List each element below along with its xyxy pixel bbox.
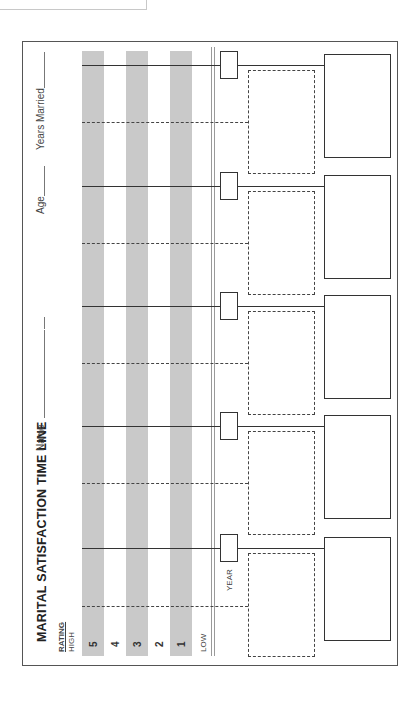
rating-band-1: [170, 51, 192, 656]
rating-level-3: 3: [132, 641, 143, 647]
timeline-connector-1: [238, 65, 324, 66]
event-dashed-box-3[interactable]: [248, 311, 315, 415]
comment-box-4[interactable]: [324, 415, 391, 519]
divider-line: [214, 47, 215, 656]
rating-level-1: 1: [176, 641, 187, 647]
name-label: Name: [35, 424, 46, 451]
year-box-1[interactable]: [220, 51, 238, 79]
timeline-connector-5: [238, 548, 324, 549]
rating-level-5: 5: [88, 641, 99, 647]
divider-line: [211, 47, 212, 656]
rating-high-label: HIGH: [67, 632, 76, 652]
rating-band-3: [126, 51, 148, 656]
year-box-4[interactable]: [220, 412, 238, 440]
rating-low-label: LOW: [199, 634, 208, 652]
age-label: Age: [35, 196, 46, 214]
year-box-3[interactable]: [220, 292, 238, 320]
rating-header: RATING: [57, 622, 66, 652]
year-box-5[interactable]: [220, 534, 238, 562]
timeline-dashed-line-1: [82, 122, 248, 123]
timeline-solid-line-2: [82, 186, 220, 187]
age-field-line[interactable]: [44, 166, 45, 196]
rating-level-2: 2: [154, 641, 165, 647]
form-title: MARITAL SATISFACTION TIME LINE: [35, 421, 49, 642]
timeline-solid-line-3: [82, 306, 220, 307]
comment-box-5[interactable]: [324, 537, 391, 641]
comment-box-1[interactable]: [324, 54, 391, 158]
year-label: YEAR: [225, 569, 234, 591]
age-field-line-tail: [44, 317, 45, 329]
comment-box-3[interactable]: [324, 295, 391, 399]
event-dashed-box-1[interactable]: [248, 70, 315, 174]
timeline-dashed-line-5: [82, 606, 248, 607]
name-field-line[interactable]: [44, 330, 45, 418]
comment-box-2[interactable]: [324, 175, 391, 279]
year-box-2[interactable]: [220, 172, 238, 200]
timeline-connector-2: [238, 186, 324, 187]
timeline-connector-4: [238, 426, 324, 427]
timeline-solid-line-4: [82, 426, 220, 427]
timeline-solid-line-1: [82, 65, 220, 66]
event-dashed-box-4[interactable]: [248, 431, 315, 535]
event-dashed-box-5[interactable]: [248, 553, 315, 657]
rating-band-5: [82, 51, 104, 656]
rating-level-4: 4: [110, 641, 121, 647]
timeline-dashed-line-4: [82, 483, 248, 484]
years-married-label: Years Married: [35, 88, 46, 150]
timeline-connector-3: [238, 306, 324, 307]
event-dashed-box-2[interactable]: [248, 191, 315, 295]
cropped-header-box: [0, 0, 147, 10]
timeline-dashed-line-3: [82, 363, 248, 364]
years-married-field-line[interactable]: [44, 52, 45, 88]
timeline-solid-line-5: [82, 548, 220, 549]
timeline-dashed-line-2: [82, 243, 248, 244]
